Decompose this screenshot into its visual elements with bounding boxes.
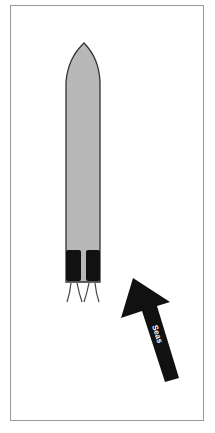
seas-arrow-icon: [121, 278, 179, 382]
thrust-lines: [67, 283, 99, 302]
thruster-left: [66, 250, 81, 281]
vessel-hull: [66, 43, 100, 282]
thruster-right: [86, 250, 100, 281]
seas-arrow: Seas: [121, 278, 179, 382]
vessel: [66, 43, 100, 302]
diagram-canvas: Seas: [0, 0, 215, 433]
